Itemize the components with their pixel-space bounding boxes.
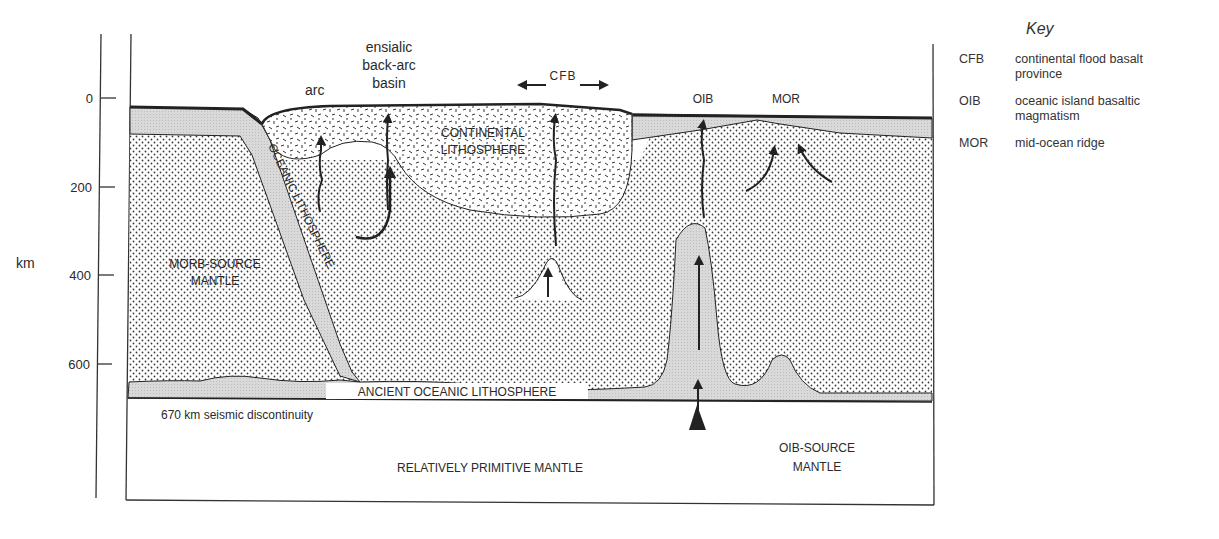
tick-label-0: 0 [86,91,93,106]
discontinuity-label: 670 km seismic discontinuity [161,408,313,422]
key-desc-line1: continental flood basalt [1015,52,1215,67]
back-arc-label-line3: basin [372,75,405,91]
key-desc-line1: mid-ocean ridge [1015,136,1215,151]
continental-label-line2: LITHOSPHERE [441,143,526,157]
oib-source-label-line1: OIB-SOURCE [779,441,855,455]
key-desc: oceanic island basaltic magmatism [1015,94,1215,124]
cfb-label: CFB [550,69,577,83]
back-arc-label-line2: back-arc [362,57,416,73]
key-abbr: CFB [955,52,1015,82]
back-arc-label-line1: ensialic [366,39,413,55]
primitive-mantle-label: RELATIVELY PRIMITIVE MANTLE [397,461,583,475]
arc-label: arc [305,82,324,98]
key-title: Key [1026,20,1215,38]
key-abbr: OIB [955,94,1015,124]
ancient-oceanic-label: ANCIENT OCEANIC LITHOSPHERE [358,385,556,399]
key-desc-line2: magmatism [1015,109,1215,124]
key-desc-line2: province [1015,67,1215,82]
back-arc-magma-arrow [387,118,388,210]
mor-label: MOR [772,92,800,106]
key-legend: Key CFB continental flood basalt provinc… [955,20,1215,163]
axis-unit-label: km [16,255,35,271]
oib-source-label-line2: MANTLE [793,460,842,474]
depth-axis: 0 200 400 600 km [16,34,116,498]
key-item-oib: OIB oceanic island basaltic magmatism [955,94,1215,124]
key-item-mor: MOR mid-ocean ridge [955,136,1215,151]
oib-label: OIB [693,92,714,106]
tick-label-600: 600 [68,357,90,372]
key-desc: continental flood basalt province [1015,52,1215,82]
oib-source-triangle-icon [689,405,706,430]
key-desc-line1: oceanic island basaltic [1015,94,1215,109]
tick-label-400: 400 [69,268,91,283]
tick-label-200: 200 [70,180,92,195]
continental-label-line1: CONTINENTAL [441,126,525,140]
key-item-cfb: CFB continental flood basalt province [955,52,1215,82]
key-abbr: MOR [955,136,1015,151]
morb-label-line1: MORB-SOURCE [169,257,260,271]
morb-label-line2: MANTLE [191,274,240,288]
key-desc: mid-ocean ridge [1015,136,1215,151]
